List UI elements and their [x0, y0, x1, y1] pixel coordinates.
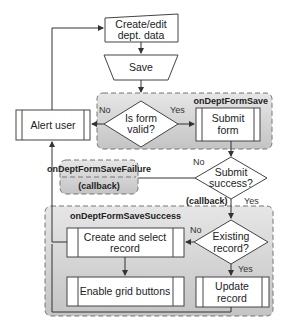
group-title: onDeptFormSave: [193, 96, 268, 106]
svg-text:Submit: Submit: [212, 112, 245, 124]
edge-label-no: No: [190, 225, 202, 235]
svg-text:record: record: [110, 242, 140, 254]
group-subtitle: (callback): [78, 181, 120, 191]
svg-text:Save: Save: [129, 61, 153, 73]
flowchart: onDeptFormSave onDeptFormSaveFailure (ca…: [0, 0, 289, 329]
edge-label-yes: Yes: [170, 105, 185, 115]
edge-label-yes: Yes: [238, 264, 253, 274]
svg-text:Update: Update: [215, 280, 249, 292]
create-select-record-node: Create and select record: [67, 228, 184, 257]
edge-label-callback: (callback): [186, 196, 228, 206]
edge-label-no: No: [99, 105, 111, 115]
submit-success-decision: Submit success?: [195, 157, 267, 199]
create-edit-node: Create/edit dept. data: [105, 14, 178, 42]
svg-text:record: record: [217, 292, 247, 304]
group-on-dept-form-save-failure: onDeptFormSaveFailure (callback): [47, 160, 151, 194]
submit-form-node: Submit form: [196, 108, 260, 141]
edge-label-no: No: [193, 157, 205, 167]
svg-text:Alert user: Alert user: [31, 119, 76, 131]
edge-label-yes: Yes: [244, 196, 259, 206]
svg-text:success?: success?: [209, 177, 253, 189]
svg-text:dept. data: dept. data: [118, 29, 165, 41]
svg-text:record?: record?: [213, 242, 249, 254]
svg-text:Enable grid buttons: Enable grid buttons: [80, 285, 170, 297]
svg-text:Existing: Existing: [213, 230, 250, 242]
enable-grid-buttons-node: Enable grid buttons: [67, 277, 184, 306]
group-title: onDeptFormSaveFailure: [47, 164, 151, 174]
svg-text:valid?: valid?: [127, 123, 155, 135]
save-node: Save: [104, 55, 178, 80]
update-record-node: Update record: [196, 277, 269, 307]
svg-text:form: form: [218, 124, 239, 136]
alert-user-node: Alert user: [16, 110, 90, 140]
group-title: onDeptFormSaveSuccess: [70, 211, 181, 221]
